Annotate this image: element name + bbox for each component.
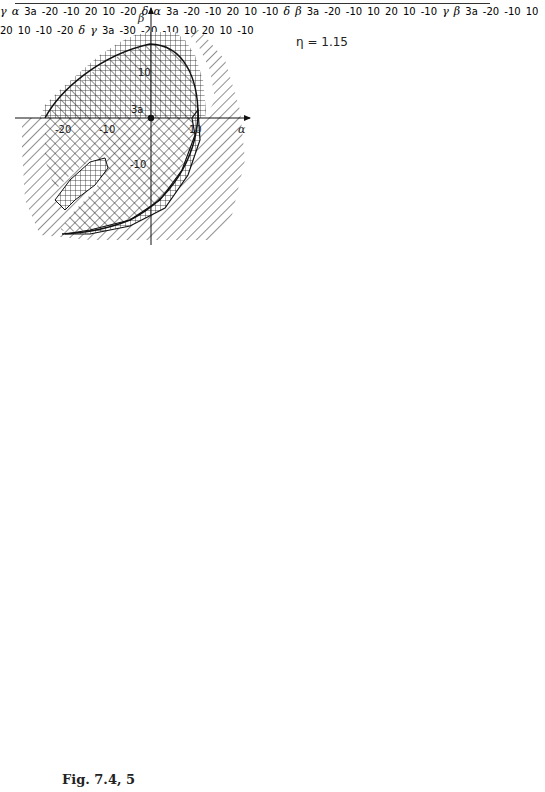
p1-tick-x-10: 10 [189,124,202,135]
p1-tick-x-neg10: -10 [99,124,115,135]
p1-tick-y-10: 10 [138,67,151,78]
p1-origin-label: 3a [131,104,144,115]
figure-canvas: β α 3a -20 -10 10 10 -10 [0,0,545,792]
p1-x-label: α [238,123,246,136]
p1-tick-x-neg20: -20 [55,124,71,135]
p1-y-label: β [137,12,144,25]
p1-tick-y-neg10: -10 [130,159,146,170]
figure-caption: Fig. 7.4, 5 [62,772,135,787]
parameter-eta-label: η = 1.15 [296,35,348,49]
panel-alpha-beta [15,8,250,245]
